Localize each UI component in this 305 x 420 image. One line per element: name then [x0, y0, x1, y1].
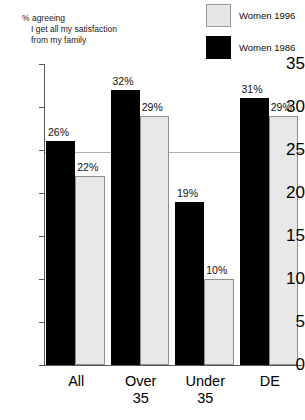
- x-axis-label-line-1: Over: [125, 373, 156, 389]
- plot-area: 26%22%32%29%19%10%31%29%: [44, 64, 302, 365]
- bar-value-label: 26%: [48, 127, 69, 138]
- x-axis-label-line-2: 35: [160, 390, 250, 407]
- y-axis-tick-label-30: 30: [271, 98, 305, 115]
- legend-swatch-icon-women-1996: [206, 4, 231, 27]
- bar-value-label: 31%: [242, 84, 263, 95]
- y-axis-tick-10: [39, 279, 44, 280]
- x-axis-label-de: DE: [225, 373, 305, 390]
- y-axis-tick-label-10: 10: [271, 270, 305, 287]
- legend-swatch-icon-women-1986: [206, 36, 231, 59]
- y-axis-tick-0: [39, 365, 44, 366]
- y-axis-tick-20: [39, 193, 44, 194]
- y-axis-tick-label-0: 0: [271, 356, 305, 373]
- y-axis-tick-label-15: 15: [271, 227, 305, 244]
- bar-value-label: 29%: [142, 102, 163, 113]
- bar: [111, 90, 140, 365]
- y-axis-tick-label-25: 25: [271, 141, 305, 158]
- y-axis-tick-5: [39, 322, 44, 323]
- bar: [240, 98, 269, 365]
- chart-title-line-1: % agreeing: [22, 13, 117, 24]
- bar: [204, 279, 233, 365]
- y-axis-tick-35: [39, 64, 44, 65]
- chart-title-line-2: I get all my satisfaction: [22, 24, 117, 35]
- y-axis-tick-30: [39, 107, 44, 108]
- bar-value-label: 22%: [77, 162, 98, 173]
- chart-title: % agreeing I get all my satisfaction fro…: [22, 13, 117, 46]
- x-axis-label-line-1: DE: [260, 373, 280, 389]
- bar-value-label: 32%: [113, 76, 134, 87]
- x-axis-label-line-1: Under: [186, 373, 226, 389]
- y-axis-tick-15: [39, 236, 44, 237]
- bar: [46, 141, 75, 365]
- bar-value-label: 10%: [206, 265, 227, 276]
- y-axis-tick-25: [39, 150, 44, 151]
- legend-label-women-1996: Women 1996: [239, 10, 295, 21]
- x-axis-label-line-1: All: [68, 373, 84, 389]
- chart-title-line-3: from my family: [22, 35, 117, 46]
- y-axis-tick-label-20: 20: [271, 184, 305, 201]
- x-axis-line: [44, 365, 302, 366]
- y-axis-tick-label-5: 5: [271, 313, 305, 330]
- bar-value-label: 19%: [177, 188, 198, 199]
- bar: [75, 176, 104, 365]
- legend-label-women-1986: Women 1986: [239, 42, 295, 53]
- bar-chart: % agreeing I get all my satisfaction fro…: [0, 0, 305, 420]
- y-axis-line: [44, 64, 45, 365]
- bar: [140, 116, 169, 365]
- bar: [175, 202, 204, 365]
- y-axis-tick-label-35: 35: [271, 55, 305, 72]
